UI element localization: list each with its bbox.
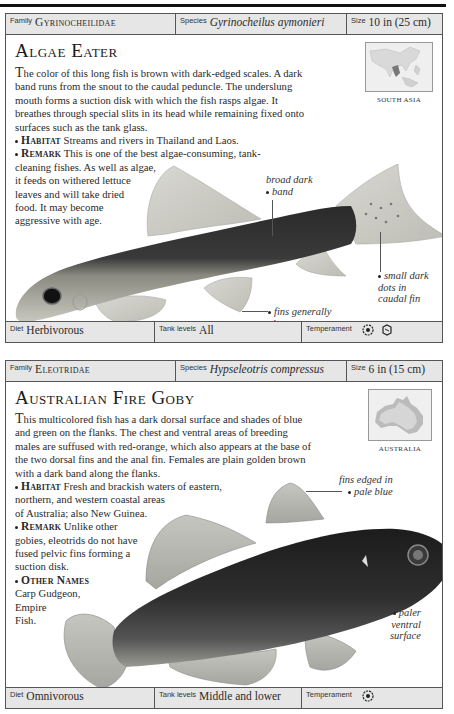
species-value: Hypseleotris compressus	[210, 363, 324, 375]
bullet-icon	[15, 153, 18, 156]
algae-eater-illustration	[6, 164, 442, 324]
card-header: FamilyEleotridae SpeciesHypseleotris com…	[6, 361, 442, 382]
family-value: Gyrinocheilidae	[35, 16, 116, 28]
annotation-leader-line	[380, 232, 381, 272]
size-label: Size	[351, 16, 366, 25]
page-top-rule	[0, 4, 446, 7]
remark-label: Remark	[21, 147, 61, 159]
annotation-text: small dark	[384, 270, 429, 281]
diet-label: Diet	[10, 324, 23, 333]
pointer-dot-icon	[393, 612, 396, 615]
annotation-leader-line	[242, 311, 268, 312]
annotation-text: pale blue	[354, 486, 393, 497]
family-field: FamilyGyrinocheilidae	[6, 14, 176, 34]
temperament-field: Temperament	[302, 322, 442, 342]
species-title: Australian Fire Goby	[15, 387, 195, 409]
pointer-dot-icon	[268, 311, 271, 314]
annotation-text: ventral	[390, 619, 421, 631]
species-field: SpeciesGyrinocheilus aymonieri	[176, 14, 347, 34]
diet-label: Diet	[10, 690, 23, 699]
annotation-text: fins edged in	[339, 474, 393, 486]
family-field: FamilyEleotridae	[6, 361, 176, 381]
temperament-field: Temperament	[302, 688, 442, 708]
tank-levels-field: Tank levelsMiddle and lower	[155, 688, 302, 708]
annotation-small-dark-dots: small dark dots in caudal fin	[378, 270, 429, 305]
description-text: he color of this long fish is brown with…	[15, 67, 304, 133]
map-label: AUSTRALIA	[368, 445, 432, 453]
species-title: Algae Eater	[15, 40, 118, 62]
annotation-text: paler	[399, 607, 421, 618]
temperament-label: Temperament	[306, 324, 352, 333]
diet-field: DietOmnivorous	[6, 688, 155, 708]
annotation-text: fins generally	[274, 306, 331, 317]
temperament-label: Temperament	[306, 690, 352, 699]
size-value: 10 in (25 cm)	[369, 16, 431, 28]
card-footer: DietOmnivorous Tank levelsMiddle and low…	[6, 687, 442, 708]
community-fish-icon	[362, 690, 374, 702]
species-field: SpeciesHypseleotris compressus	[176, 361, 347, 381]
annotation-text: surface	[390, 630, 421, 642]
diet-value: Omnivorous	[26, 690, 84, 702]
pointer-dot-icon	[266, 191, 269, 194]
annotation-fins-edged-pale-blue: fins edged in pale blue	[339, 474, 393, 497]
habitat-text: Streams and rivers in Thailand and Laos.	[64, 134, 239, 146]
range-map-australia	[368, 389, 432, 441]
community-fish-icon	[362, 324, 374, 336]
annotation-broad-dark-band: broad dark band	[266, 174, 313, 197]
size-value: 6 in (15 cm)	[369, 363, 426, 375]
species-card-australian-fire-goby: FamilyEleotridae SpeciesHypseleotris com…	[5, 360, 443, 709]
diet-value: Herbivorous	[26, 324, 84, 336]
tank-levels-value: Middle and lower	[199, 690, 281, 702]
family-label: Family	[10, 363, 32, 372]
card-header: FamilyGyrinocheilidae SpeciesGyrinocheil…	[6, 14, 442, 35]
annotation-text: broad dark	[266, 174, 313, 186]
map-label: SOUTH ASIA	[365, 96, 433, 104]
habitat-label: Habitat	[21, 134, 61, 146]
annotation-leader-line	[306, 491, 342, 492]
range-map-south-asia	[365, 42, 433, 92]
size-field: Size10 in (25 cm)	[347, 14, 442, 34]
description-text: his multicolored fish has a dark dorsal …	[15, 413, 311, 479]
annotation-text: caudal fin	[378, 293, 429, 305]
species-value: Gyrinocheilus aymonieri	[210, 16, 325, 28]
species-card-algae-eater: FamilyGyrinocheilidae SpeciesGyrinocheil…	[5, 13, 443, 343]
family-label: Family	[10, 16, 32, 25]
diet-field: DietHerbivorous	[6, 322, 155, 342]
annotation-text: dots in	[378, 282, 429, 294]
tank-levels-field: Tank levelsAll	[155, 322, 302, 342]
species-label: Species	[180, 363, 207, 372]
bullet-icon	[15, 140, 18, 143]
pointer-dot-icon	[348, 491, 351, 494]
size-label: Size	[351, 363, 366, 372]
annotation-leader-line	[272, 200, 273, 236]
australia-map-icon	[369, 390, 431, 440]
australian-fire-goby-illustration	[6, 471, 442, 691]
south-asia-map-icon	[366, 43, 432, 91]
tank-levels-value: All	[199, 324, 214, 336]
tank-levels-label: Tank levels	[159, 324, 196, 333]
card-footer: DietHerbivorous Tank levelsAll Temperame…	[6, 321, 442, 342]
size-field: Size6 in (15 cm)	[347, 361, 442, 381]
aggressive-fish-icon	[381, 324, 393, 336]
drop-initial: T	[15, 411, 24, 426]
drop-initial: T	[15, 65, 24, 80]
species-label: Species	[180, 16, 207, 25]
tank-levels-label: Tank levels	[159, 690, 196, 699]
annotation-text: band	[272, 186, 293, 197]
pointer-dot-icon	[378, 275, 381, 278]
annotation-paler-ventral-surface: paler ventral surface	[390, 607, 421, 642]
family-value: Eleotridae	[35, 363, 90, 375]
remark-text: This is one of the best algae-consuming,…	[64, 147, 261, 159]
